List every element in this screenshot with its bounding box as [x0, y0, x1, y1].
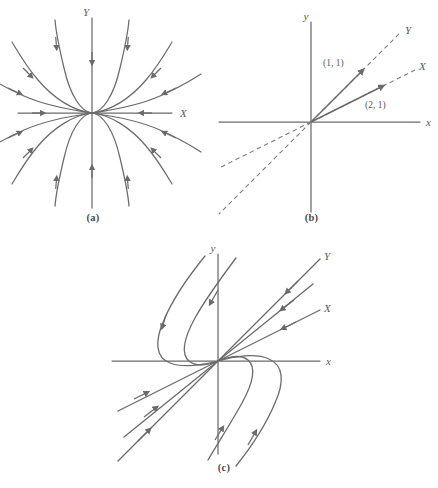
panel-c-eigen-label-X: X: [323, 302, 332, 314]
panel-b-eigenline-Y-lower: [219, 122, 311, 214]
panel-b-vectors: [311, 70, 383, 122]
panel-c-eigenline-Y-upper: [218, 259, 320, 361]
panel-a-x-axis-label: X: [179, 107, 188, 119]
panel-b-eigen-label-X: X: [418, 60, 427, 72]
panel-a: Y X: [0, 0, 220, 230]
panel-c-ray-mid-upper: [218, 284, 313, 361]
panel-c-curve-lower-right-outer: [218, 356, 281, 466]
panel-c-y-axis-label: y: [210, 242, 216, 254]
panel-c-eigenline-Y-lower: [118, 361, 218, 461]
panel-a-caption: (a): [0, 212, 186, 223]
figure-root: Y X (a): [0, 0, 438, 488]
panel-b-eigenline-X-lower: [219, 122, 311, 168]
panel-c-eigen-label-Y: Y: [324, 250, 332, 262]
panel-a-plot: Y X: [0, 0, 220, 230]
panel-b-vector-1-1: [311, 70, 363, 122]
panel-b-x-axis-label: x: [425, 116, 431, 128]
panel-c-eigenline-X-upper: [218, 310, 320, 361]
panel-c-ray-mid-lower: [124, 361, 218, 437]
panel-c-x-axis-label: x: [325, 355, 331, 367]
panel-a-y-axis-label: Y: [83, 6, 91, 18]
panel-b-vector-2-1-label: (2, 1): [365, 100, 386, 111]
panel-b-eigen-label-Y: Y: [405, 24, 413, 36]
panel-b-eigenlines: [219, 32, 415, 214]
panel-b-plot: (1, 1) (2, 1) Y X y x: [215, 0, 438, 230]
panel-c-curve-lower-right-inner: [208, 357, 253, 460]
panel-c-curve-upper-left-inner: [184, 258, 236, 365]
panel-b-caption: (b): [215, 212, 408, 223]
panel-b-vector-1-1-label: (1, 1): [323, 58, 344, 69]
panel-c-caption: (c): [108, 462, 340, 473]
panel-c: y x Y X: [108, 232, 348, 488]
panel-c-curve-upper-left-outer: [158, 256, 218, 366]
panel-b: (1, 1) (2, 1) Y X y x: [215, 0, 438, 230]
panel-b-y-axis-label: y: [303, 10, 309, 22]
panel-c-eigenline-X-lower: [118, 361, 218, 411]
panel-c-plot: y x Y X: [108, 232, 348, 488]
